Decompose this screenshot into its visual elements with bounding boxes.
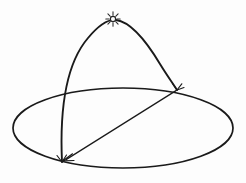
figure-background [0, 0, 246, 183]
diagram-canvas [0, 0, 246, 183]
sun-core-icon [110, 16, 115, 21]
celestial-dome-figure: Celestial dome with sun path over horizo… [0, 0, 246, 183]
sun-glyph [106, 12, 120, 26]
